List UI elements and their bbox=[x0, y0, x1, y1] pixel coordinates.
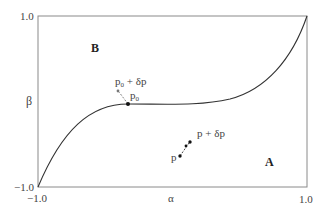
p-perturbed-point bbox=[188, 140, 191, 143]
p-perturbed-label: p + δp bbox=[197, 128, 225, 139]
p0-label: p0 bbox=[130, 90, 139, 103]
p0-perturbed-label: p0 + δp bbox=[115, 76, 146, 89]
p-point bbox=[178, 154, 181, 157]
x-max-label: 1.0 bbox=[299, 194, 313, 205]
p-perturbation-line bbox=[180, 143, 189, 156]
y-axis-label: β bbox=[26, 95, 32, 107]
x-min-label: −1.0 bbox=[27, 193, 47, 204]
region-b-label: B bbox=[91, 42, 99, 54]
p-label: p bbox=[171, 152, 177, 163]
p-mid-point bbox=[185, 145, 188, 148]
diagram-canvas bbox=[0, 0, 328, 216]
p0-label-sub: 0 bbox=[136, 95, 140, 103]
p0-perturbation-line bbox=[119, 92, 128, 104]
p0-perturbed-point bbox=[117, 90, 120, 93]
x-axis-label: α bbox=[168, 193, 174, 204]
y-max-label: 1.0 bbox=[20, 11, 34, 22]
p0-perturbed-label-suffix: + δp bbox=[124, 75, 146, 87]
region-a-label: A bbox=[265, 156, 274, 168]
